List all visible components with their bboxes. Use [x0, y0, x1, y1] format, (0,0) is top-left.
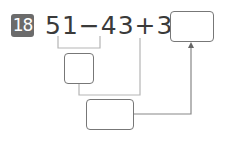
- connector-lines: [0, 0, 227, 144]
- connector-combined-to-answer: [134, 46, 191, 114]
- connector-intermediate-to-38: [79, 38, 140, 95]
- bracket-51-43: [58, 36, 100, 48]
- arrow-up-icon: [188, 42, 194, 48]
